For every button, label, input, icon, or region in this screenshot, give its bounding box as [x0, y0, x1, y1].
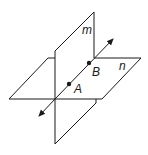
point-b-label: B [92, 65, 100, 79]
plane-n-label: n [119, 59, 126, 73]
line-ab-upper [55, 39, 113, 99]
point-b-dot [87, 61, 91, 65]
line-ab-lower [39, 99, 55, 116]
plane-m-label: m [82, 23, 92, 37]
point-a-label: A [73, 82, 82, 96]
plane-n-left-edge [9, 58, 55, 99]
intersecting-planes-diagram: m n B A [0, 0, 148, 155]
point-a-dot [67, 82, 71, 86]
plane-m-bottom-edge [55, 99, 96, 144]
